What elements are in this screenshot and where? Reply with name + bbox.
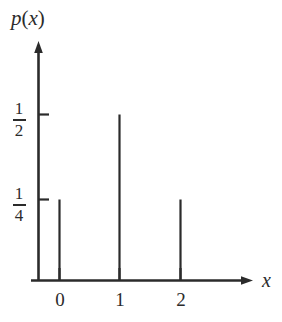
- y-axis-title-close-paren: ): [38, 6, 45, 30]
- x-axis-title: x: [262, 270, 271, 290]
- y-axis-title-variable: p: [11, 6, 22, 30]
- y-axis-arrowhead: [34, 41, 43, 53]
- plot-canvas: [0, 0, 282, 322]
- y-axis-title: p(x): [11, 8, 45, 29]
- x-axis-arrowhead: [241, 276, 253, 285]
- x-tick-label-1: 1: [107, 290, 133, 309]
- x-tick-label-2: 2: [168, 290, 194, 309]
- fraction-denominator: 4: [6, 207, 32, 225]
- fraction-numerator: 1: [6, 185, 32, 203]
- fraction-denominator: 2: [6, 122, 32, 140]
- y-tick-label-one-quarter: 1 4: [6, 185, 32, 225]
- x-tick-label-0: 0: [47, 290, 73, 309]
- y-axis-title-argument: x: [29, 6, 38, 30]
- probability-mass-function-figure: p(x) x 1 2 1 4 0 1 2: [0, 0, 282, 322]
- fraction-numerator: 1: [6, 100, 32, 118]
- y-axis-title-open-paren: (: [22, 6, 29, 30]
- y-tick-label-one-half: 1 2: [6, 100, 32, 140]
